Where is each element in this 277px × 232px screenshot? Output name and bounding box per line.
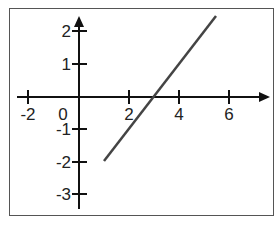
y-tick-label: -3 — [56, 185, 71, 204]
x-axis-arrow-icon — [259, 92, 270, 102]
chart-plot: -2 0 2 4 6 2 1 -1 -2 -3 — [0, 0, 277, 232]
y-tick-label: 1 — [62, 55, 71, 74]
x-tick-label: 2 — [124, 105, 133, 124]
x-tick-label: 4 — [174, 105, 183, 124]
y-tick-label: 2 — [62, 22, 71, 41]
x-tick-label: -2 — [20, 105, 35, 124]
y-tick-label: -2 — [56, 153, 71, 172]
data-line — [104, 16, 216, 161]
x-tick-label: 6 — [224, 105, 233, 124]
y-tick-label: -1 — [56, 120, 71, 139]
y-axis-arrow-icon — [74, 16, 84, 27]
